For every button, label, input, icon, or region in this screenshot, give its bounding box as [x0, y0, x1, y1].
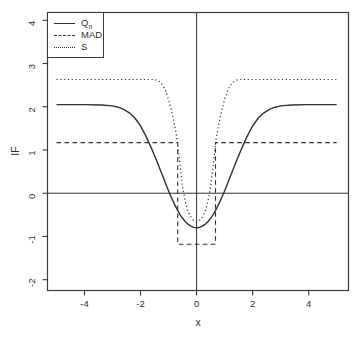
- y-tick-label: -1: [26, 235, 37, 243]
- influence-function-plot: -4-2024-2-101234 Qn MAD S IF x: [0, 0, 356, 338]
- y-tick-label: 3: [26, 64, 37, 69]
- legend-label-qn: Qn: [81, 18, 92, 28]
- y-tick-label: 4: [26, 21, 37, 26]
- y-tick-label: 1: [26, 150, 37, 155]
- legend-item-mad: MAD: [54, 29, 100, 41]
- dotted-line-key-icon: [54, 47, 75, 48]
- x-tick-label: -4: [80, 298, 88, 309]
- x-tick-label: 0: [194, 298, 199, 309]
- legend-label-mad: MAD: [81, 30, 102, 40]
- y-tick-label: -2: [26, 278, 37, 286]
- x-tick-label: -2: [136, 298, 144, 309]
- y-tick-label: 2: [26, 107, 37, 112]
- legend-item-qn: Qn: [54, 17, 100, 29]
- x-tick-label: 2: [250, 298, 255, 309]
- y-tick-label: 0: [26, 194, 37, 199]
- legend-item-s: S: [54, 41, 100, 53]
- x-axis-label: x: [47, 316, 349, 328]
- y-axis-label: IF: [9, 146, 21, 155]
- legend-label-s: S: [81, 42, 87, 52]
- legend: Qn MAD S: [47, 12, 104, 58]
- solid-line-key-icon: [54, 23, 75, 24]
- x-tick-label: 4: [306, 298, 311, 309]
- dashed-line-key-icon: [54, 35, 75, 36]
